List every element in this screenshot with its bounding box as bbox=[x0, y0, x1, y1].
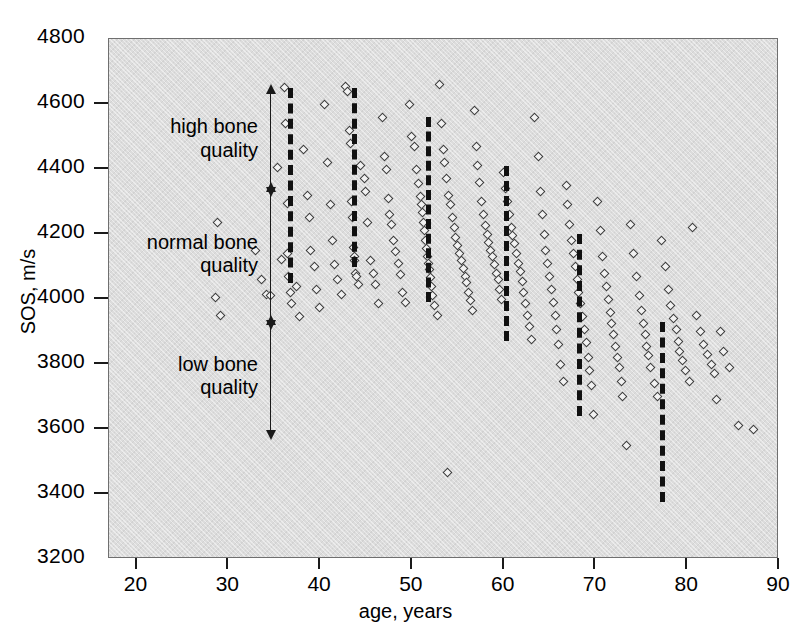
data-point bbox=[410, 141, 420, 151]
low-bone-quality-arrow bbox=[270, 324, 271, 431]
data-point bbox=[519, 288, 529, 298]
y-axis-tick-label: 3600 bbox=[0, 414, 85, 438]
data-point bbox=[333, 275, 343, 285]
data-point bbox=[636, 305, 646, 315]
data-point bbox=[387, 219, 397, 229]
data-point bbox=[378, 112, 388, 122]
data-point bbox=[622, 440, 632, 450]
data-point bbox=[515, 266, 525, 276]
normal-bone-quality-label-line1: normal bone bbox=[88, 231, 258, 255]
data-point bbox=[287, 299, 297, 309]
data-point bbox=[328, 236, 338, 246]
data-point bbox=[517, 276, 527, 286]
x-axis-tick bbox=[410, 558, 412, 569]
y-axis-tick bbox=[94, 492, 108, 494]
y-axis-tick-label: 3200 bbox=[0, 544, 85, 568]
y-axis-tick bbox=[94, 167, 108, 169]
data-point bbox=[600, 268, 610, 278]
data-point bbox=[320, 99, 330, 109]
data-point bbox=[413, 179, 423, 189]
data-point bbox=[325, 200, 335, 210]
high-bone-quality-label-line2: quality bbox=[88, 139, 258, 163]
data-point bbox=[273, 162, 283, 172]
data-point bbox=[381, 164, 391, 174]
x-axis-tick-label: 20 bbox=[106, 572, 166, 596]
data-point bbox=[535, 187, 545, 197]
data-point bbox=[706, 359, 716, 369]
data-point bbox=[638, 318, 648, 328]
x-axis-tick bbox=[685, 558, 687, 569]
data-point bbox=[398, 288, 408, 298]
y-axis-tick-label: 4000 bbox=[0, 284, 85, 308]
data-point bbox=[587, 380, 597, 390]
data-point bbox=[438, 145, 448, 155]
data-point bbox=[618, 392, 628, 402]
arrow-up-icon bbox=[266, 182, 276, 192]
data-point bbox=[613, 353, 623, 363]
data-point bbox=[565, 219, 575, 229]
y-axis-tick-label: 4200 bbox=[0, 219, 85, 243]
data-point bbox=[541, 245, 551, 255]
data-point bbox=[585, 366, 595, 376]
bone-quality-scatter-figure: SOS, m/s age, years 32003400360038004000… bbox=[0, 0, 811, 635]
y-axis-tick bbox=[94, 427, 108, 429]
data-point bbox=[306, 245, 316, 255]
data-point bbox=[469, 106, 479, 116]
data-point bbox=[383, 193, 393, 203]
percentile-marker-6 bbox=[660, 322, 665, 502]
data-point bbox=[581, 338, 591, 348]
x-axis-tick bbox=[135, 558, 137, 569]
data-point bbox=[445, 200, 455, 210]
x-axis-tick-label: 60 bbox=[473, 572, 533, 596]
y-axis-tick-label: 3400 bbox=[0, 479, 85, 503]
data-point bbox=[467, 305, 477, 315]
y-axis-tick bbox=[94, 102, 108, 104]
data-point bbox=[490, 260, 500, 270]
low-bone-quality-label-line2: quality bbox=[88, 376, 258, 400]
data-point bbox=[543, 258, 553, 268]
data-point bbox=[480, 221, 490, 231]
data-point bbox=[466, 296, 476, 306]
data-point bbox=[556, 359, 566, 369]
data-point bbox=[359, 174, 369, 184]
x-axis-tick bbox=[318, 558, 320, 569]
data-point bbox=[443, 468, 453, 478]
x-axis-tick bbox=[593, 558, 595, 569]
y-axis-tick bbox=[94, 297, 108, 299]
x-axis-tick bbox=[502, 558, 504, 569]
data-point bbox=[710, 369, 720, 379]
x-axis-tick-label: 30 bbox=[197, 572, 257, 596]
normal-bone-quality-label-line2: quality bbox=[88, 254, 258, 278]
data-point bbox=[471, 141, 481, 151]
data-point bbox=[389, 236, 399, 246]
data-point bbox=[548, 297, 558, 307]
data-point bbox=[354, 279, 364, 289]
x-axis-tick-label: 70 bbox=[564, 572, 624, 596]
data-point bbox=[635, 291, 645, 301]
data-point bbox=[545, 271, 555, 281]
data-point bbox=[724, 362, 734, 372]
percentile-marker-2 bbox=[352, 88, 357, 267]
data-point bbox=[699, 340, 709, 350]
data-point bbox=[691, 310, 701, 320]
high-bone-quality-label-line1: high bone bbox=[88, 115, 258, 139]
data-point bbox=[734, 421, 744, 431]
data-point bbox=[550, 310, 560, 320]
data-point bbox=[368, 268, 378, 278]
data-point bbox=[304, 213, 314, 223]
arrow-up-icon bbox=[266, 315, 276, 325]
data-point bbox=[407, 132, 417, 142]
data-point bbox=[524, 322, 534, 332]
data-point bbox=[644, 351, 654, 361]
data-point bbox=[526, 335, 536, 345]
data-point bbox=[607, 318, 617, 328]
y-axis-tick-label: 4600 bbox=[0, 89, 85, 113]
data-point bbox=[530, 112, 540, 122]
data-point bbox=[370, 279, 380, 289]
data-point bbox=[216, 310, 226, 320]
data-point bbox=[552, 325, 562, 335]
data-point bbox=[523, 310, 533, 320]
data-point bbox=[430, 301, 440, 311]
x-axis-tick bbox=[777, 558, 779, 569]
data-point bbox=[400, 297, 410, 307]
